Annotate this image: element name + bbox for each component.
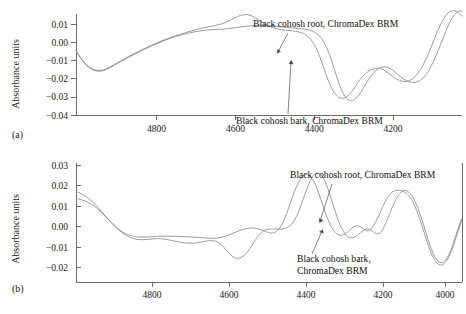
panel-a-arrowhead-bark (289, 60, 294, 64)
panel-b-ytick-label: 0.03 (51, 161, 68, 171)
panel-a-leader-bark (288, 62, 291, 114)
panel-b-arrowhead-root (319, 218, 323, 223)
panel-b-ytick-label: −0.01 (46, 243, 68, 253)
panel-a-ytick-label: −0.02 (46, 74, 68, 84)
panel-b-spectrum-bark (78, 173, 462, 263)
panel-a-ytick-label: −0.01 (46, 56, 68, 66)
panel-b-tag: (b) (12, 283, 24, 295)
panel-b-leader-bark (312, 231, 322, 254)
panel-a-y-axis-title: Absorbance units (10, 39, 21, 109)
panel-a-ytick-label: 0.00 (51, 38, 68, 48)
panel-b-plot: Absorbance units 0.03 0.02 0.01 0.00 −0.… (0, 157, 466, 314)
panel-a-annotation-root-label: Black cohosh root, ChromaDex BRM (253, 18, 399, 29)
panel-b-ytick-label: −0.02 (46, 263, 68, 273)
panel-a: Absorbance units 0.01 0.00 −0.01 −0.02 −… (0, 0, 466, 157)
panel-b-ytick-label: 0.00 (51, 222, 68, 232)
panel-b-annotation-bark-label-2: ChromaDex BRM (297, 265, 368, 276)
panel-b-annotation-bark-label: Black cohosh bark, (297, 253, 371, 264)
panel-b-xtick-label: 4400 (297, 290, 316, 300)
panel-b-xtick-label: 4800 (143, 290, 162, 300)
panel-b-annotation-root-label: Black cohosh root, ChromaDex BRM (290, 169, 436, 180)
panel-b-xtick-label: 4200 (374, 290, 393, 300)
panel-a-xtick-label: 4200 (384, 124, 403, 134)
panel-a-ytick-label: −0.04 (46, 111, 68, 121)
panel-b-xtick-label: 4600 (220, 290, 239, 300)
panel-b-y-axis-title: Absorbance units (10, 194, 21, 264)
panel-a-leader-root (278, 33, 288, 52)
panel-a-ytick-label: −0.03 (46, 92, 68, 102)
panel-b-ytick-label: 0.01 (51, 202, 68, 212)
panel-b-xtick-label: 4000 (436, 290, 455, 300)
panel-b: Absorbance units 0.03 0.02 0.01 0.00 −0.… (0, 157, 466, 314)
panel-b-spectrum-root (78, 175, 462, 266)
panel-a-ytick-label: 0.01 (51, 20, 68, 30)
spectra-figure: Absorbance units 0.01 0.00 −0.01 −0.02 −… (0, 0, 466, 314)
panel-a-xtick-label: 4800 (147, 124, 166, 134)
panel-a-plot: Absorbance units 0.01 0.00 −0.01 −0.02 −… (0, 0, 466, 157)
panel-b-ytick-label: 0.02 (51, 181, 68, 191)
panel-b-y-ticks (76, 165, 81, 268)
panel-b-x-ticks (152, 282, 445, 287)
panel-a-tag: (a) (12, 129, 23, 141)
panel-a-y-ticks (71, 24, 76, 115)
panel-a-annotation-bark-label: Black cohosh bark, ChromaDex BRM (236, 115, 383, 126)
